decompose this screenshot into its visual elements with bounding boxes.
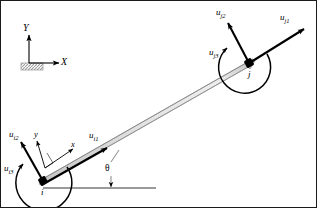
local-y-axis (37, 141, 45, 168)
dof-label-uj2: uj2 (216, 8, 226, 19)
local-y-axis-label: y (34, 130, 38, 139)
uj1-arrow (251, 29, 304, 62)
uj2-arrow (228, 23, 249, 63)
global-x-axis-label: X (61, 57, 67, 67)
global-axes-group (21, 35, 59, 70)
node-label-i: i (41, 188, 44, 197)
ui1-arrow (47, 148, 107, 182)
local-x-axis-label: x (71, 140, 75, 149)
dof-ui1-sub: i1 (94, 135, 99, 142)
ui2-arrow (21, 142, 43, 181)
beam-top-edge (46, 59, 253, 177)
ground-hatch-block (21, 63, 43, 70)
local-axes-corner (45, 153, 53, 168)
diagram-canvas (1, 1, 317, 208)
beam-element (39, 59, 255, 185)
dof-uj3-sub: j3 (214, 52, 219, 59)
theta-leader-upper (111, 150, 119, 162)
dof-ui3-sub: i3 (9, 168, 14, 175)
dof-label-ui2: ui2 (9, 130, 19, 141)
dof-label-ui1: ui1 (89, 131, 99, 142)
node-label-j: j (248, 70, 251, 79)
node-j-dof-group (219, 23, 304, 93)
dof-uj2-sub: j2 (221, 12, 226, 19)
global-y-axis-label: Y (23, 23, 29, 33)
dof-uj1-sub: j1 (285, 17, 290, 24)
dof-label-uj3: uj3 (209, 48, 219, 59)
theta-angle-label: θ (105, 164, 110, 174)
dof-ui2-sub: i2 (14, 134, 19, 141)
frame-element-dof-diagram: Y X y x i j θ ui1 ui2 ui3 uj1 uj2 uj3 (0, 0, 317, 208)
theta-angle-group (111, 150, 119, 187)
dof-label-ui3: ui3 (4, 164, 14, 175)
dof-label-uj1: uj1 (280, 13, 290, 24)
